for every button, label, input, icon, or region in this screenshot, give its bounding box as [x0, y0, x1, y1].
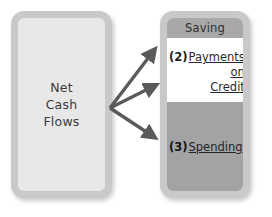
category-label-payments-on-credit: (2) Payments on Credit	[169, 50, 243, 95]
allocation-categories-box: Saving (2) Payments on Credit (3) Spendi…	[160, 11, 250, 198]
diagram-canvas: Net Cash Flows Saving (2) Payments on Cr…	[0, 0, 272, 217]
category-band-payments-on-credit: (2) Payments on Credit	[167, 38, 243, 102]
net-cash-flows-label: Net Cash Flows	[43, 79, 79, 130]
category-number-2: (2)	[169, 50, 188, 65]
arrow-to-spending	[110, 108, 151, 135]
net-cash-flows-box: Net Cash Flows	[11, 11, 112, 198]
allocation-categories-interior: Saving (2) Payments on Credit (3) Spendi…	[167, 18, 243, 191]
category-band-spending: (3) Spending	[167, 102, 243, 191]
category-band-saving: Saving	[167, 18, 243, 38]
payments-on-credit-line-1: Payments	[189, 50, 243, 65]
arrow-to-saving	[110, 53, 152, 108]
category-label-spending: (3) Spending	[169, 140, 243, 155]
category-number-3: (3)	[169, 140, 188, 155]
category-word-spending: Spending	[189, 140, 243, 155]
category-label-saving: Saving	[185, 21, 225, 35]
payments-on-credit-line-3: Credit	[210, 80, 243, 95]
arrow-to-payments-on-credit	[110, 87, 152, 108]
payments-on-credit-line-2: on	[231, 65, 243, 80]
payments-on-credit-lines: Payments on Credit	[189, 50, 243, 95]
net-cash-flows-box-interior: Net Cash Flows	[18, 18, 105, 191]
